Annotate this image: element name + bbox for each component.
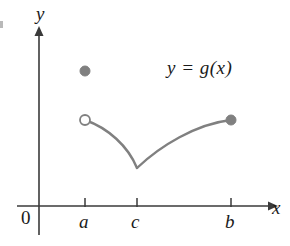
origin-label: 0 [21, 208, 31, 227]
tick-label-b: b [225, 212, 235, 231]
y-axis-label: y [36, 4, 44, 23]
function-equation-label: y = g(x) [167, 58, 232, 77]
point-open-endpoint-at-a [80, 115, 90, 125]
y-axis-arrowhead [35, 26, 44, 36]
x-axis-label: x [272, 198, 280, 217]
tick-label-c: c [131, 212, 139, 231]
point-isolated-value-at-a [80, 66, 90, 76]
graph-canvas [0, 0, 290, 246]
figure-container: y x 0 a c b y = g(x) [0, 0, 290, 246]
curve-right-branch [137, 120, 231, 168]
tick-label-a: a [79, 212, 89, 231]
point-closed-endpoint-at-b [226, 115, 236, 125]
curve-left-branch [85, 120, 137, 168]
